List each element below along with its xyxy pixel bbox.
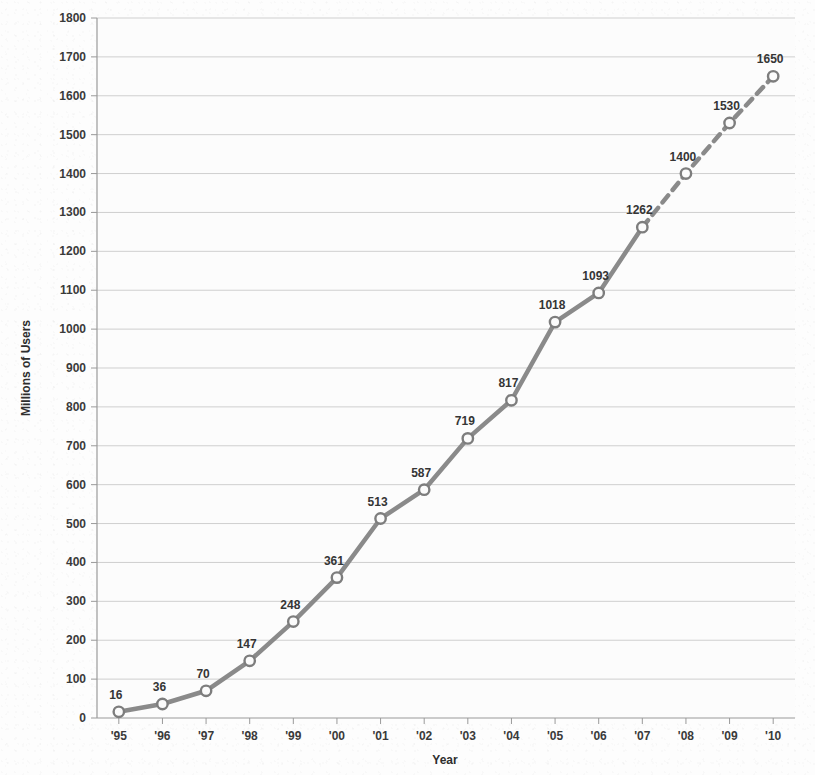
- data-point-label: 1018: [539, 298, 566, 312]
- data-point-label: 513: [368, 495, 388, 509]
- y-tick-label: 700: [66, 439, 86, 453]
- data-point-label: 36: [153, 680, 167, 694]
- data-point-marker: [244, 656, 254, 666]
- y-tick-label: 100: [66, 672, 86, 686]
- y-tick-label: 1200: [59, 244, 86, 258]
- data-point-marker: [463, 433, 473, 443]
- data-point-marker: [550, 317, 560, 327]
- y-tick-label: 1100: [60, 283, 86, 297]
- x-tick-label: '05: [547, 729, 564, 743]
- y-tick-label: 0: [79, 711, 86, 725]
- data-point-marker: [593, 288, 603, 298]
- x-tick-label: '06: [591, 729, 608, 743]
- y-tick-label: 300: [66, 594, 86, 608]
- x-tick-label: '01: [372, 729, 389, 743]
- line-chart: 0100200300400500600700800900100011001200…: [0, 0, 815, 775]
- data-point-label: 1400: [670, 150, 697, 164]
- data-point-marker: [419, 485, 429, 495]
- x-tick-label: '00: [329, 729, 346, 743]
- data-point-marker: [288, 616, 298, 626]
- y-tick-label: 1300: [59, 205, 86, 219]
- x-tick-label: '97: [198, 729, 215, 743]
- data-point-label: 817: [498, 376, 518, 390]
- y-tick-label: 900: [66, 361, 86, 375]
- data-point-marker: [637, 222, 647, 232]
- data-point-marker: [332, 572, 342, 582]
- y-tick-label: 1000: [59, 322, 86, 336]
- data-point-label: 587: [411, 466, 431, 480]
- x-tick-label: '99: [285, 729, 302, 743]
- data-point-label: 147: [237, 637, 257, 651]
- y-tick-label: 500: [66, 517, 86, 531]
- x-tick-label: '02: [416, 729, 433, 743]
- y-tick-label: 1600: [59, 89, 86, 103]
- data-point-marker: [681, 168, 691, 178]
- data-point-marker: [724, 118, 734, 128]
- data-point-marker: [201, 686, 211, 696]
- y-tick-label: 800: [66, 400, 86, 414]
- data-point-marker: [375, 513, 385, 523]
- data-point-label: 16: [109, 688, 123, 702]
- x-axis-ticks: '95'96'97'98'99'00'01'02'03'04'05'06'07'…: [111, 718, 782, 743]
- data-point-label: 1530: [713, 99, 740, 113]
- data-point-marker: [157, 699, 167, 709]
- y-tick-label: 1800: [59, 11, 86, 25]
- y-tick-label: 400: [66, 555, 86, 569]
- chart-page: 0100200300400500600700800900100011001200…: [0, 0, 815, 775]
- x-tick-label: '95: [111, 729, 128, 743]
- data-point-label: 1650: [757, 52, 784, 66]
- data-point-marker: [768, 71, 778, 81]
- data-point-label: 719: [455, 414, 475, 428]
- data-point-label: 70: [196, 667, 210, 681]
- y-tick-label: 1500: [59, 128, 86, 142]
- x-axis-title: Year: [432, 753, 458, 767]
- y-tick-label: 1400: [59, 167, 86, 181]
- data-point-marker: [114, 707, 124, 717]
- y-tick-label: 200: [66, 633, 86, 647]
- data-point-label: 248: [280, 598, 300, 612]
- x-tick-label: '04: [503, 729, 520, 743]
- data-point-marker: [506, 395, 516, 405]
- y-tick-label: 1700: [59, 50, 86, 64]
- y-tick-label: 600: [66, 478, 86, 492]
- x-tick-label: '09: [721, 729, 738, 743]
- x-tick-label: '10: [765, 729, 782, 743]
- x-tick-label: '96: [154, 729, 171, 743]
- y-axis-ticks: 0100200300400500600700800900100011001200…: [59, 11, 97, 725]
- data-point-label: 1262: [626, 203, 653, 217]
- x-tick-label: '07: [634, 729, 651, 743]
- x-tick-label: '03: [460, 729, 477, 743]
- x-tick-label: '98: [242, 729, 259, 743]
- data-point-label: 361: [324, 554, 344, 568]
- y-axis-title: Millions of Users: [19, 320, 33, 416]
- data-point-label: 1093: [582, 269, 609, 283]
- x-tick-label: '08: [678, 729, 695, 743]
